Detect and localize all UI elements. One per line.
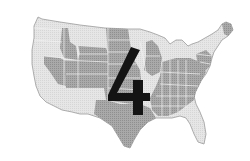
us-map-graphic [0, 0, 250, 161]
dark-region-texas [94, 100, 156, 148]
us-map-svg [0, 0, 250, 161]
